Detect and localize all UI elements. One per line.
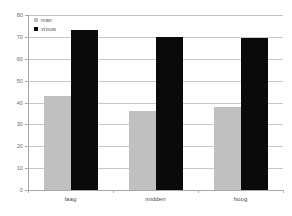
y-tick-label: 40	[3, 100, 23, 106]
x-tick-mark	[113, 190, 114, 193]
legend-item-vrouw: vrouw	[34, 25, 88, 33]
legend-label-man: man	[41, 17, 52, 23]
legend: man vrouw	[34, 16, 88, 34]
x-axis-line	[28, 190, 284, 191]
y-tick-label: 30	[3, 121, 23, 127]
x-tick-label-midden: midden	[126, 196, 186, 202]
legend-swatch-man-icon	[34, 18, 38, 22]
x-tick-mark	[198, 190, 199, 193]
bar-hoog-vrouw	[241, 38, 268, 190]
bar-midden-vrouw	[156, 37, 183, 190]
x-tick-label-laag: laag	[41, 196, 101, 202]
y-tick-label: 0	[3, 187, 23, 193]
bar-midden-man	[129, 111, 156, 190]
y-tick-label: 10	[3, 165, 23, 171]
x-tick-label-hoog: hoog	[211, 196, 271, 202]
y-tick-label: 20	[3, 143, 23, 149]
bar-laag-man	[44, 96, 71, 190]
x-tick-mark	[28, 190, 29, 193]
x-tick-mark	[283, 190, 284, 193]
bar-hoog-man	[214, 107, 241, 190]
bar-laag-vrouw	[71, 30, 98, 190]
legend-swatch-vrouw-icon	[34, 27, 38, 31]
y-tick-label: 60	[3, 56, 23, 62]
y-tick-label: 80	[3, 12, 23, 18]
y-tick-label: 70	[3, 34, 23, 40]
y-tick-label: 50	[3, 78, 23, 84]
legend-item-man: man	[34, 16, 88, 24]
bar-chart: 01020304050607080 laagmiddenhoog man vro…	[0, 0, 292, 216]
legend-label-vrouw: vrouw	[41, 26, 56, 32]
plot-area	[28, 15, 283, 190]
